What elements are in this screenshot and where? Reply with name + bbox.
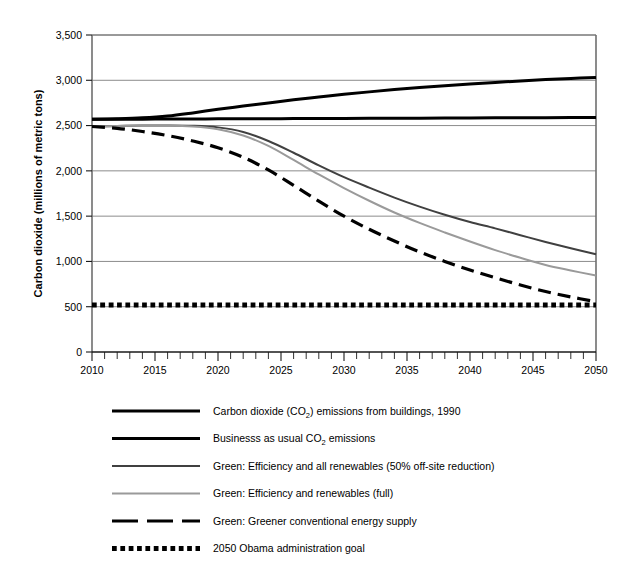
series-line-1 [92, 118, 596, 120]
chart-figure: 201020152020202520302035204020452050 050… [0, 0, 634, 561]
y-tick-label: 1,500 [56, 210, 82, 222]
x-tick-label: 2010 [80, 364, 104, 376]
y-axis-title-text: Carbon dioxide (millions of metric tons) [32, 89, 44, 297]
x-tick-label: 2020 [206, 364, 230, 376]
y-tick-label: 2,000 [56, 165, 82, 177]
legend-label-4: Green: Greener conventional energy suppl… [213, 515, 417, 527]
y-tick-label: 1,000 [56, 255, 82, 267]
x-tick-label: 2050 [584, 364, 608, 376]
y-tick-label: 500 [64, 301, 82, 313]
emissions-line-chart: 201020152020202520302035204020452050 050… [0, 0, 634, 561]
y-tick-label: 3,500 [56, 29, 82, 41]
legend-label-3: Green: Efficiency and renewables (full) [213, 487, 393, 499]
y-tick-label: 3,000 [56, 74, 82, 86]
y-axis-title: Carbon dioxide (millions of metric tons) [32, 89, 44, 297]
y-tick-label: 2,500 [56, 119, 82, 131]
x-tick-label: 2025 [269, 364, 293, 376]
y-tick-label: 0 [76, 346, 82, 358]
x-tick-label: 2030 [332, 364, 356, 376]
legend-label-5: 2050 Obama administration goal [213, 542, 365, 554]
x-axis-tick-labels: 201020152020202520302035204020452050 [80, 364, 608, 376]
x-tick-label: 2040 [458, 364, 482, 376]
legend-label-2: Green: Efficiency and all renewables (50… [213, 460, 495, 472]
x-tick-label: 2015 [143, 364, 167, 376]
chart-background [0, 0, 634, 561]
x-tick-label: 2045 [521, 364, 545, 376]
x-tick-label: 2035 [395, 364, 419, 376]
